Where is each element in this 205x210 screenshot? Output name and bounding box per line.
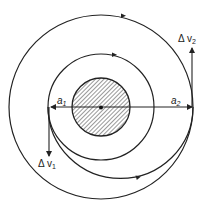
delta-v2-label: Δ v2 bbox=[178, 33, 196, 45]
a2-label: a2 bbox=[171, 95, 181, 107]
center-dot bbox=[99, 106, 103, 110]
hohmann-transfer-diagram: a1 a2 Δ v1 Δ v2 bbox=[0, 0, 205, 210]
a1-label: a1 bbox=[57, 95, 67, 107]
delta-v1-label: Δ v1 bbox=[38, 158, 56, 170]
